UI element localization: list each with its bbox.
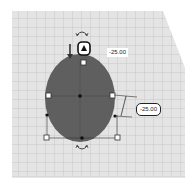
lift-cone-icon[interactable] — [78, 42, 90, 55]
ellipsoid-shape[interactable] — [45, 54, 115, 142]
resize-handle-top[interactable] — [81, 60, 86, 65]
workplane-viewport[interactable] — [0, 0, 195, 187]
center-handle[interactable] — [78, 94, 82, 98]
resize-handle-bottom-left[interactable] — [44, 135, 49, 140]
dimension-label-top[interactable]: -25.00 — [107, 48, 128, 57]
dimension-input-side[interactable]: -25.00 — [136, 103, 161, 116]
resize-handle-right[interactable] — [110, 93, 115, 98]
resize-handle-left[interactable] — [46, 93, 51, 98]
side-handle-left[interactable] — [45, 113, 48, 116]
bottom-handle[interactable] — [80, 136, 84, 140]
resize-handle-bottom-right[interactable] — [115, 135, 120, 140]
